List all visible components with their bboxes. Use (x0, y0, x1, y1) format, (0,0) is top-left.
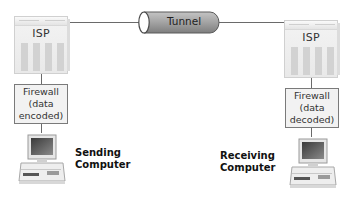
tunnel: Tunnel (138, 11, 220, 34)
left-isp-label: ISP (15, 27, 67, 40)
connector-left-isp-to-firewall (41, 74, 42, 84)
server-top-bevel (285, 21, 337, 30)
left-firewall-box: Firewall (data encoded) (14, 84, 68, 124)
desktop-computer-icon (17, 133, 67, 185)
connector-left-isp-to-tunnel (68, 22, 140, 23)
caption-line: Computer (220, 162, 282, 174)
sending-computer-caption: Sending Computer (75, 147, 130, 171)
tunnel-label: Tunnel (156, 15, 212, 27)
server-slot (291, 47, 298, 75)
connector-right-firewall-to-computer (311, 128, 312, 137)
firewall-note-line: decoded) (286, 114, 338, 126)
caption-line: Receiving (220, 150, 282, 162)
firewall-note-line: (data (286, 102, 338, 114)
server-slot (21, 43, 28, 71)
firewall-note-line: encoded) (15, 110, 67, 122)
caption-line: Computer (75, 159, 130, 171)
server-slot (303, 47, 310, 75)
receiving-computer-caption: Receiving Computer (220, 150, 282, 174)
connector-right-isp-to-firewall (311, 78, 312, 88)
server-slot (57, 43, 64, 71)
server-side (337, 23, 340, 75)
sending-computer (17, 133, 67, 185)
connector-left-firewall-to-computer (41, 124, 42, 133)
right-isp-label: ISP (285, 31, 337, 44)
firewall-title: Firewall (15, 86, 67, 98)
right-firewall-box: Firewall (data decoded) (285, 88, 339, 128)
server-slot (45, 43, 52, 71)
server-side (67, 19, 70, 71)
left-isp-server: ISP (14, 16, 68, 74)
firewall-title: Firewall (286, 90, 338, 102)
server-slot (327, 47, 334, 75)
caption-line: Sending (75, 147, 130, 159)
right-isp-server: ISP (284, 20, 338, 78)
desktop-computer-icon (288, 137, 338, 189)
receiving-computer (288, 137, 338, 189)
server-top-bevel (15, 17, 67, 26)
server-slot (315, 47, 322, 75)
server-slot (33, 43, 40, 71)
connector-tunnel-to-right-isp (218, 22, 286, 23)
firewall-note-line: (data (15, 98, 67, 110)
